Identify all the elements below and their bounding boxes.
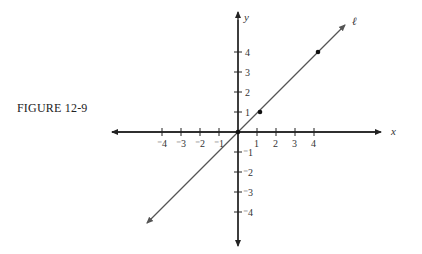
y-tick-label: ⁻4 — [243, 207, 253, 218]
y-tick-label: 2 — [245, 87, 250, 98]
x-tick-label: 4 — [311, 138, 316, 149]
y-tick-label: 4 — [245, 47, 250, 58]
y-axis-label: y — [243, 11, 249, 23]
point-4-4 — [316, 50, 321, 55]
point-1-1 — [258, 110, 263, 115]
x-tick-label: ⁻2 — [195, 138, 205, 149]
x-tick-label: 3 — [292, 138, 297, 149]
y-tick-label: 3 — [245, 67, 250, 78]
y-tick-label: ⁻2 — [243, 167, 253, 178]
line-l — [238, 25, 345, 132]
y-tick-label: ⁻3 — [243, 187, 253, 198]
y-tick-label: 1 — [245, 107, 250, 118]
coordinate-plane: ⁻4 ⁻3 ⁻2 ⁻1 1 2 3 4 4 3 2 1 ⁻1 ⁻2 ⁻3 ⁻4 … — [0, 0, 422, 254]
line-l-label: ℓ — [352, 15, 357, 27]
y-tick-label: ⁻1 — [243, 147, 253, 158]
x-axis-label: x — [390, 125, 396, 137]
x-tick-label: 1 — [254, 138, 259, 149]
x-tick-label: 2 — [273, 138, 278, 149]
x-tick-label: ⁻4 — [157, 138, 167, 149]
x-tick-label: ⁻3 — [176, 138, 186, 149]
point-origin — [236, 130, 241, 135]
